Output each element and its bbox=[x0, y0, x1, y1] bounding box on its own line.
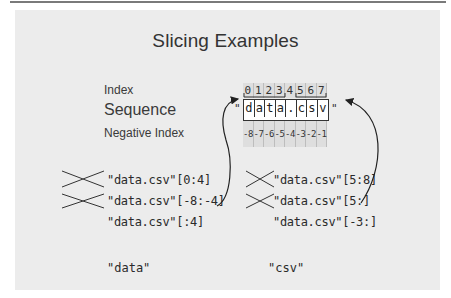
diagram-overlay bbox=[0, 0, 451, 298]
arrow-left-icon bbox=[217, 99, 238, 206]
cross-icon bbox=[246, 171, 274, 187]
cross-icon bbox=[62, 194, 104, 208]
arrow-right-icon bbox=[346, 100, 378, 203]
cross-icon bbox=[246, 194, 274, 208]
bracket-right-icon bbox=[296, 93, 326, 97]
cross-icon bbox=[62, 171, 104, 187]
bracket-left-icon bbox=[244, 93, 285, 97]
